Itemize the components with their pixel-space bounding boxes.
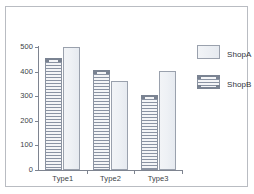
bar-shopa-type3 xyxy=(159,71,176,170)
y-tick-label: 100 xyxy=(20,142,33,150)
chart-frame: 0100200300400500 Type1Type2Type3 ShopA S… xyxy=(5,6,248,187)
x-tick-label-type3: Type3 xyxy=(148,174,169,183)
hatched-swatch-icon xyxy=(197,75,220,89)
legend-label-shopa: ShopA xyxy=(227,50,252,59)
y-tick xyxy=(35,96,39,97)
bar-shopb-type2 xyxy=(93,70,110,170)
x-tick xyxy=(182,170,183,174)
x-tick-label-type2: Type2 xyxy=(100,174,121,183)
y-tick-label: 400 xyxy=(20,68,33,76)
y-tick xyxy=(35,47,39,48)
x-axis-line xyxy=(38,170,182,171)
x-tick xyxy=(87,170,88,174)
y-tick-label: 0 xyxy=(29,166,33,174)
y-axis-line xyxy=(38,46,39,170)
bar-shopa-type1 xyxy=(63,47,80,170)
bar-shopb-type3 xyxy=(141,95,158,170)
y-tick xyxy=(35,72,39,73)
y-tick-label: 300 xyxy=(20,92,33,100)
x-tick-label-type1: Type1 xyxy=(52,174,73,183)
y-tick xyxy=(35,121,39,122)
bar-chart-figure: 0100200300400500 Type1Type2Type3 ShopA S… xyxy=(0,0,254,194)
x-tick xyxy=(134,170,135,174)
y-tick xyxy=(35,145,39,146)
legend-label-shopb: ShopB xyxy=(227,80,252,89)
plain-swatch-icon xyxy=(197,45,220,59)
bar-shopb-type1 xyxy=(45,58,62,170)
y-tick xyxy=(35,170,39,171)
plot-area: 0100200300400500 Type1Type2Type3 xyxy=(39,47,182,170)
bar-shopa-type2 xyxy=(111,81,128,170)
y-tick-label: 200 xyxy=(20,117,33,125)
y-tick-label: 500 xyxy=(20,43,33,51)
